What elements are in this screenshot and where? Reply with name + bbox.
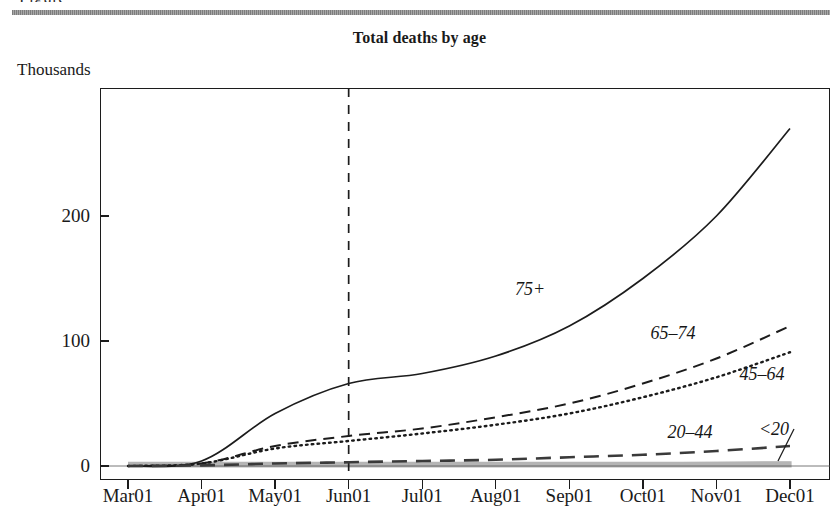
x-tick-mark [716, 480, 717, 489]
series-label-20-44: 20–44 [668, 422, 713, 443]
x-tick-mark [201, 480, 202, 489]
x-tick-mark [642, 480, 643, 489]
x-tick-mark [789, 480, 790, 489]
x-axis-ticks: Mar01Apr01May01Jun01Jul01Aug01Sep01Oct01… [0, 0, 839, 522]
series-label-65-74: 65–74 [651, 323, 696, 344]
x-tick-mark [127, 480, 128, 489]
x-tick-mark [274, 480, 275, 489]
series-label--20: <20 [759, 419, 789, 440]
x-tick-mark [569, 480, 570, 489]
series-label-75-: 75+ [515, 279, 545, 300]
series-label-45-64: 45–64 [740, 364, 785, 385]
x-tick-mark [348, 480, 349, 489]
x-tick-mark [422, 480, 423, 489]
x-tick-mark [495, 480, 496, 489]
